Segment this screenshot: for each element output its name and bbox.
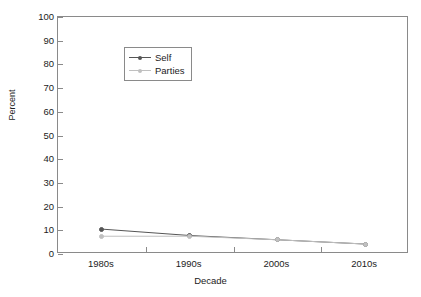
y-tick-label: 0	[49, 248, 54, 259]
y-tick: 0	[58, 254, 63, 255]
legend-label: Parties	[155, 65, 185, 76]
x-tick-label: 1980s	[71, 258, 131, 269]
legend-swatch	[129, 66, 151, 76]
y-tick-label: 60	[43, 106, 54, 117]
legend-swatch	[129, 53, 151, 63]
y-tick-label: 80	[43, 58, 54, 69]
y-tick-label: 40	[43, 153, 54, 164]
series-lines	[58, 17, 409, 254]
legend-item: Parties	[129, 64, 185, 77]
data-point	[363, 242, 368, 247]
y-tick-label: 20	[43, 201, 54, 212]
y-tick-label: 30	[43, 177, 54, 188]
legend-item: Self	[129, 51, 185, 64]
legend-label: Self	[155, 52, 171, 63]
y-axis-title: Percent	[7, 45, 17, 165]
x-tick-label: 1990s	[159, 258, 219, 269]
y-tick-label: 10	[43, 224, 54, 235]
y-tick-label: 50	[43, 130, 54, 141]
x-tick-label: 2000s	[246, 258, 306, 269]
x-axis-title: Decade	[0, 275, 421, 286]
y-tick-label: 90	[43, 35, 54, 46]
plot-area: 0102030405060708090100 SelfParties	[57, 16, 408, 253]
chart-legend: SelfParties	[124, 47, 192, 81]
data-point	[187, 234, 192, 239]
y-tick-label: 70	[43, 82, 54, 93]
chart-figure: Percent 0102030405060708090100 SelfParti…	[0, 0, 421, 297]
y-tick-label: 100	[38, 11, 54, 22]
x-tick-label: 2010s	[334, 258, 394, 269]
